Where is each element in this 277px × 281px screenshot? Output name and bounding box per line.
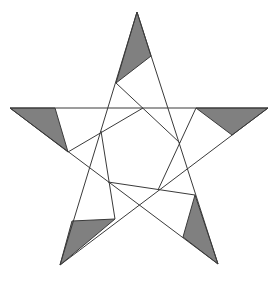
pentagram-diagram [0, 0, 277, 281]
shaded-triangles [10, 12, 268, 265]
shaded-triangle [60, 219, 115, 265]
inner-segment [108, 182, 195, 195]
inner-segment [101, 131, 115, 219]
inner-segment [116, 83, 180, 143]
shaded-triangle [196, 108, 268, 135]
inner-segments [68, 83, 196, 219]
shaded-triangle [183, 195, 218, 264]
